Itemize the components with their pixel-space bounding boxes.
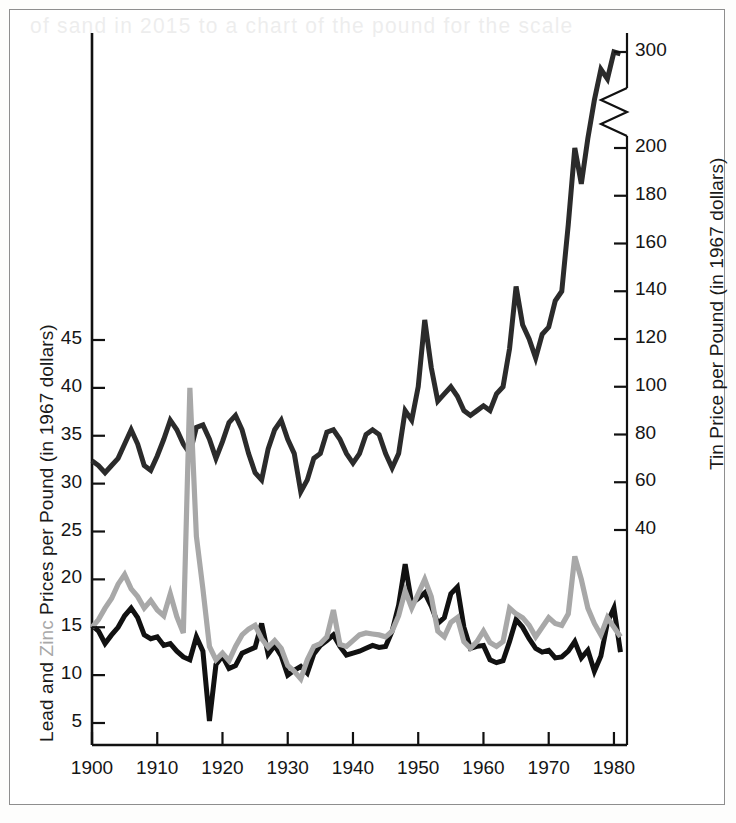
y-left-tick-label: 35 — [40, 423, 82, 445]
series-group — [92, 52, 620, 721]
y-right-tick-label: 160 — [635, 231, 683, 253]
x-tick-label: 1980 — [584, 757, 644, 779]
y-left-tick-label: 5 — [40, 710, 82, 732]
y-right-tick-label: 40 — [635, 517, 683, 539]
y-left-tick-label: 30 — [40, 471, 82, 493]
y-right-tick-label: 200 — [635, 135, 683, 157]
tick-marks-group — [92, 52, 627, 745]
x-tick-label: 1960 — [453, 757, 513, 779]
y-left-tick-label: 15 — [40, 614, 82, 636]
y-right-tick-label: 300 — [635, 39, 683, 61]
y-right-tick-label: 140 — [635, 278, 683, 300]
x-tick-label: 1940 — [323, 757, 383, 779]
x-tick-label: 1900 — [62, 757, 122, 779]
series-line-zinc — [92, 388, 620, 679]
y-axis-right-title: Tin Price per Pound (in 1967 dollars) — [706, 158, 728, 470]
y-right-tick-label: 100 — [635, 374, 683, 396]
chart-figure: of sand in 2015 to a chart of the pound … — [0, 0, 736, 823]
series-line-tin — [92, 52, 620, 492]
y-left-tick-label: 45 — [40, 327, 82, 349]
x-tick-label: 1970 — [519, 757, 579, 779]
x-tick-label: 1910 — [127, 757, 187, 779]
y-left-tick-label: 40 — [40, 375, 82, 397]
series-line-lead — [92, 564, 620, 721]
chart-plot-area — [0, 0, 736, 823]
y-left-tick-label: 10 — [40, 662, 82, 684]
x-tick-label: 1950 — [388, 757, 448, 779]
x-tick-label: 1920 — [192, 757, 252, 779]
y-right-tick-label: 120 — [635, 326, 683, 348]
y-left-tick-label: 20 — [40, 566, 82, 588]
y-right-tick-label: 180 — [635, 183, 683, 205]
y-right-tick-label: 80 — [635, 422, 683, 444]
y-right-tick-label: 60 — [635, 469, 683, 491]
y-left-tick-label: 25 — [40, 519, 82, 541]
x-tick-label: 1930 — [258, 757, 318, 779]
